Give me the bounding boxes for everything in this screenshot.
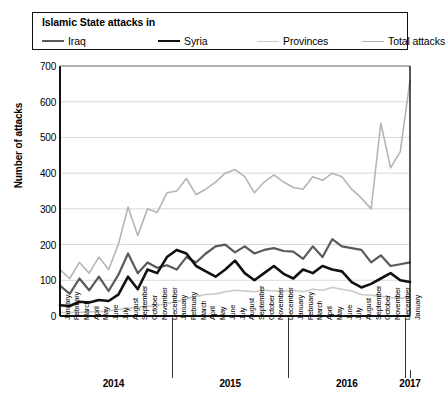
year-separator-tick bbox=[288, 370, 289, 378]
year-label: 2017 bbox=[399, 378, 420, 389]
x-tick-label: June bbox=[345, 305, 354, 320]
x-tick-label: June bbox=[111, 305, 120, 320]
x-tick-label: August bbox=[364, 298, 373, 320]
x-tick-label: January bbox=[63, 295, 72, 320]
x-tick-label: July bbox=[238, 308, 247, 320]
x-tick-label: March bbox=[199, 300, 208, 320]
year-separator-tick bbox=[410, 370, 411, 378]
x-tick-label: October bbox=[383, 295, 392, 320]
x-tick-label: May bbox=[101, 307, 110, 320]
x-tick-label: February bbox=[189, 292, 198, 320]
x-tick-label: October bbox=[150, 295, 159, 320]
x-tick-label: September bbox=[257, 286, 266, 320]
x-tick-label: December bbox=[286, 288, 295, 321]
x-tick-label: September bbox=[374, 286, 383, 320]
x-tick-label: May bbox=[335, 307, 344, 320]
x-tick-label: July bbox=[354, 308, 363, 320]
year-separator bbox=[405, 318, 406, 372]
x-tick-label: July bbox=[121, 308, 130, 320]
x-tick-label: November bbox=[160, 288, 169, 321]
plot-background bbox=[60, 66, 410, 316]
x-tick-label: August bbox=[131, 298, 140, 320]
x-tick-label: September bbox=[140, 286, 149, 320]
x-tick-label: February bbox=[72, 292, 81, 320]
year-label: 2016 bbox=[336, 378, 357, 389]
x-tick-label: April bbox=[92, 306, 101, 320]
x-tick-label: January bbox=[179, 295, 188, 320]
year-label: 2014 bbox=[103, 378, 124, 389]
x-tick-label: March bbox=[315, 300, 324, 320]
year-separator-tick bbox=[405, 370, 406, 378]
x-tick-label: May bbox=[218, 307, 227, 320]
x-tick-label: April bbox=[325, 306, 334, 320]
year-separator-tick bbox=[172, 370, 173, 378]
x-tick-label: January bbox=[413, 295, 422, 320]
x-tick-label: November bbox=[393, 288, 402, 321]
year-separator bbox=[172, 318, 173, 372]
x-tick-label: November bbox=[276, 288, 285, 321]
x-tick-label: August bbox=[247, 298, 256, 320]
x-tick-label: June bbox=[228, 305, 237, 320]
x-tick-label: February bbox=[306, 292, 315, 320]
x-tick-label: December bbox=[170, 288, 179, 321]
x-tick-label: December bbox=[403, 288, 412, 321]
year-separator bbox=[288, 318, 289, 372]
x-tick-label: April bbox=[208, 306, 217, 320]
x-tick-label: March bbox=[82, 300, 91, 320]
x-tick-label: October bbox=[267, 295, 276, 320]
x-tick-label: January bbox=[296, 295, 305, 320]
year-label: 2015 bbox=[219, 378, 240, 389]
